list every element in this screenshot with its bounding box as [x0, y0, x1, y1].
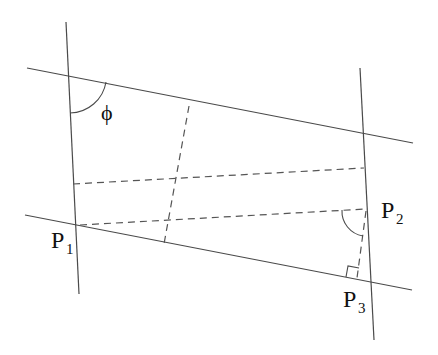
bottom-line: [25, 215, 412, 290]
p3-label: P 3: [343, 286, 366, 316]
svg-text:P: P: [51, 227, 64, 253]
mid-slanted-dashed-line: [164, 106, 189, 244]
p1-label: P 1: [51, 227, 74, 257]
p2-angle-arc: [342, 210, 363, 236]
p1-p2-dashed-line: [80, 209, 366, 225]
svg-text:2: 2: [396, 211, 404, 227]
p2-label: P 2: [381, 197, 404, 227]
mid-horizontal-dashed-line: [73, 168, 364, 184]
svg-text:1: 1: [66, 241, 74, 257]
svg-text:P: P: [343, 286, 356, 312]
svg-text:P: P: [381, 197, 394, 223]
geometry-diagram: ϕ P 1 P 2 P 3: [0, 0, 438, 355]
top-line: [27, 68, 413, 143]
svg-text:3: 3: [358, 300, 366, 316]
phi-label: ϕ: [101, 100, 113, 125]
